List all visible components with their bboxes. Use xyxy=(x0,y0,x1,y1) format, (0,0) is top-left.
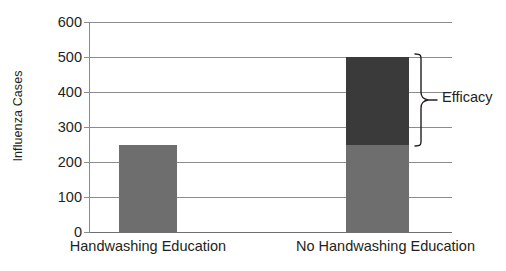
y-tick-label: 100 xyxy=(38,190,82,205)
x-axis-label-handwashing-education: Handwashing Education xyxy=(58,238,238,254)
y-axis-title: Influenza Cases xyxy=(0,0,36,232)
y-tickmark-100 xyxy=(84,197,90,198)
x-axis-label-no-handwashing-education: No Handwashing Education xyxy=(278,238,493,254)
y-tick-label: 500 xyxy=(38,50,82,65)
efficacy-brace-icon xyxy=(409,52,443,148)
y-tickmark-200 xyxy=(84,162,90,163)
efficacy-annotation: Efficacy xyxy=(409,52,506,148)
y-axis-title-text: Influenza Cases xyxy=(11,70,25,161)
y-tickmark-300 xyxy=(84,127,90,128)
bar-handwashing-education-observed xyxy=(119,145,177,233)
y-tick-label: 200 xyxy=(38,155,82,170)
y-tickmark-0 xyxy=(84,232,90,233)
bar-no-handwashing-education-observed xyxy=(346,145,409,233)
y-tickmark-500 xyxy=(84,57,90,58)
plot-area xyxy=(90,22,452,232)
bar-no-handwashing-education-prevented xyxy=(346,57,409,145)
y-tick-label: 400 xyxy=(38,85,82,100)
gridline-0-baseline xyxy=(90,232,452,233)
y-tick-label: 300 xyxy=(38,120,82,135)
y-tickmark-400 xyxy=(84,92,90,93)
gridline-600 xyxy=(90,22,452,23)
efficacy-label: Efficacy xyxy=(442,89,493,105)
y-axis-tick-labels: 600 500 400 300 200 100 0 xyxy=(36,0,82,271)
influenza-cases-bar-chart: Influenza Cases 600 500 400 300 200 100 … xyxy=(0,0,506,271)
y-tick-label: 600 xyxy=(38,15,82,30)
y-tickmark-600 xyxy=(84,22,90,23)
